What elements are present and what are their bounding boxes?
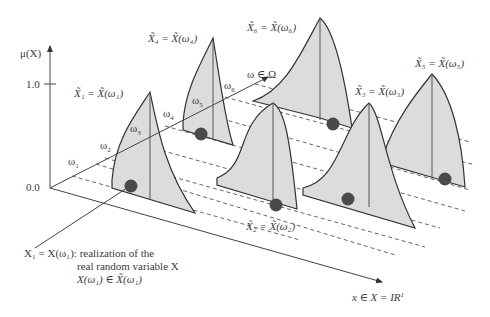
annotation-line-2: real random variable X bbox=[77, 260, 179, 272]
fuzzy-label-x4: X̃₄ = X̃(ω₄) bbox=[147, 32, 197, 45]
omega-1-label: ω1 bbox=[68, 155, 79, 170]
fuzzy-label-x3: X̃₃ = X̃(ω₃) bbox=[354, 85, 404, 98]
tick-label-1: 1.0 bbox=[26, 78, 40, 90]
omega-6-label: ω6 bbox=[224, 79, 235, 94]
mu-axis-label: μ(X) bbox=[20, 47, 42, 60]
x-axis-label: x ∈ X = IR1 bbox=[351, 291, 404, 303]
annotation-pointer bbox=[35, 186, 130, 248]
fuzzy-label-x5: X̃₅ = X̃(ω₅) bbox=[414, 57, 464, 70]
fuzzy-set-x1 bbox=[112, 92, 195, 213]
annotation-line-1: X₁ = X(ω₁): realization of the bbox=[24, 247, 154, 260]
fuzzy-set-x4 bbox=[183, 38, 233, 145]
fuzzy-random-variable-diagram: μ(X) 1.0 0.0 ω ∈ Ω x ∈ X = IR1 ω1 ω2 ω3 … bbox=[0, 0, 490, 317]
fuzzy-label-x1: X̃₁ = X̃(ω₁) bbox=[73, 87, 123, 100]
omega-2-label: ω2 bbox=[100, 139, 111, 154]
omega-4-label: ω4 bbox=[163, 107, 174, 122]
fuzzy-label-x2: X̃₂ = X̃(ω₂) bbox=[245, 220, 295, 233]
tick-label-0: 0.0 bbox=[26, 181, 40, 193]
fuzzy-set-x2 bbox=[217, 103, 297, 209]
annotation-line-3: X(ω₁) ∈ X̃(ω₁) bbox=[76, 273, 142, 286]
fuzzy-label-x6: X̃₆ = X̃(ω₆) bbox=[246, 21, 296, 34]
omega-axis-label: ω ∈ Ω bbox=[247, 68, 276, 80]
